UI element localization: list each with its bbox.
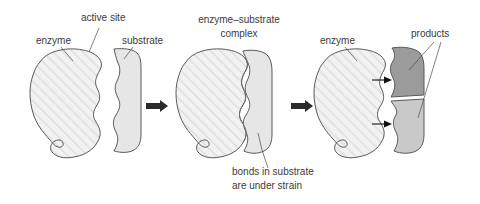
label-products: products bbox=[411, 28, 449, 39]
label-substrate: substrate bbox=[122, 35, 164, 46]
label-active-site: active site bbox=[81, 12, 126, 23]
label-enzyme-1: enzyme bbox=[36, 35, 71, 46]
label-enzyme-3: enzyme bbox=[320, 35, 355, 46]
label-strain-line-1: bonds in substrate bbox=[232, 166, 314, 177]
product-upper-shape bbox=[390, 47, 424, 97]
label-complex-line-2: complex bbox=[220, 28, 257, 39]
label-strain-line-2: are under strain bbox=[232, 180, 302, 191]
enzyme-reaction-diagram: enzyme active site substrate enzyme–subs… bbox=[0, 0, 480, 204]
label-complex-line-1: enzyme–substrate bbox=[198, 14, 280, 25]
